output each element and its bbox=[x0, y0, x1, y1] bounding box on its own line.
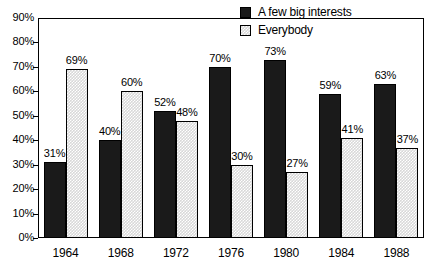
bar-value-label: 41% bbox=[336, 124, 368, 135]
bar-chart: 0%10%20%30%40%50%60%70%80%90% 31%69%40%6… bbox=[0, 0, 436, 275]
bar-group: 40%60% bbox=[99, 18, 143, 238]
bar-value-label: 30% bbox=[226, 151, 258, 162]
legend-swatch-a-few-big-interests-icon bbox=[240, 7, 251, 18]
bar bbox=[374, 84, 396, 238]
bar-value-label: 37% bbox=[391, 134, 423, 145]
y-axis-tick-label: 10% bbox=[0, 208, 34, 219]
bar bbox=[66, 69, 88, 238]
y-axis-tick-mark bbox=[33, 238, 38, 239]
bar bbox=[44, 162, 66, 238]
legend-label: A few big interests bbox=[258, 6, 352, 19]
bar bbox=[286, 172, 308, 238]
bar-value-label: 48% bbox=[171, 107, 203, 118]
bar bbox=[176, 121, 198, 238]
x-axis-tick-label: 1968 bbox=[93, 246, 148, 260]
legend-item: A few big interests bbox=[240, 4, 380, 21]
bar bbox=[396, 148, 418, 238]
bars-layer: 31%69%40%60%52%48%70%30%73%27%59%41%63%3… bbox=[38, 18, 424, 238]
bar bbox=[231, 165, 253, 238]
bar-value-label: 63% bbox=[369, 70, 401, 81]
x-axis-tick-label: 1984 bbox=[314, 246, 369, 260]
x-axis-tick-label: 1988 bbox=[369, 246, 424, 260]
x-axis-tick-label: 1964 bbox=[38, 246, 93, 260]
y-axis: 0%10%20%30%40%50%60%70%80%90% bbox=[0, 0, 34, 275]
bar-group: 70%30% bbox=[209, 18, 253, 238]
bar-group: 31%69% bbox=[44, 18, 88, 238]
bar-value-label: 70% bbox=[204, 53, 236, 64]
bar bbox=[99, 140, 121, 238]
y-axis-tick-label: 30% bbox=[0, 159, 34, 170]
legend-swatch-everybody-icon bbox=[240, 25, 251, 36]
x-axis-tick-label: 1980 bbox=[259, 246, 314, 260]
bar-value-label: 69% bbox=[61, 55, 93, 66]
bar bbox=[341, 138, 363, 238]
bar bbox=[319, 94, 341, 238]
bar bbox=[264, 60, 286, 238]
bar-group: 73%27% bbox=[264, 18, 308, 238]
y-axis-tick-label: 20% bbox=[0, 183, 34, 194]
y-axis-tick-label: 0% bbox=[0, 232, 34, 243]
bar-value-label: 60% bbox=[116, 77, 148, 88]
x-axis-tick-label: 1976 bbox=[203, 246, 258, 260]
bar bbox=[154, 111, 176, 238]
bar-value-label: 59% bbox=[314, 80, 346, 91]
y-axis-tick-label: 60% bbox=[0, 85, 34, 96]
bar-value-label: 73% bbox=[259, 46, 291, 57]
legend-label: Everybody bbox=[258, 24, 313, 37]
x-axis-tick-label: 1972 bbox=[148, 246, 203, 260]
chart-legend: A few big interests Everybody bbox=[240, 4, 380, 40]
bar-value-label: 27% bbox=[281, 158, 313, 169]
bar-group: 52%48% bbox=[154, 18, 198, 238]
y-axis-tick-label: 70% bbox=[0, 61, 34, 72]
y-axis-tick-label: 50% bbox=[0, 110, 34, 121]
legend-item: Everybody bbox=[240, 22, 380, 39]
bar-group: 59%41% bbox=[319, 18, 363, 238]
y-axis-tick-label: 90% bbox=[0, 12, 34, 23]
bar-group: 63%37% bbox=[374, 18, 418, 238]
x-axis: 1964196819721976198019841988 bbox=[38, 246, 424, 266]
y-axis-tick-label: 80% bbox=[0, 36, 34, 47]
y-axis-tick-label: 40% bbox=[0, 134, 34, 145]
bar bbox=[121, 91, 143, 238]
